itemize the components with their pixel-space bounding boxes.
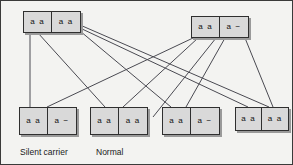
connection-line — [245, 38, 273, 107]
allele-cell-right: a a — [262, 108, 288, 130]
genotype-box-offspring-1[interactable]: a a a − — [19, 107, 77, 135]
allele-cell-right: a − — [220, 17, 248, 37]
allele-cell-left: a a — [91, 108, 119, 134]
connection-line — [186, 38, 225, 107]
connection-line — [123, 38, 198, 107]
connection-line — [38, 33, 105, 107]
genotype-box-parent-left[interactable]: a a a a — [23, 11, 81, 33]
genotype-box-offspring-4[interactable]: a a a a — [235, 107, 289, 131]
connection-line — [47, 38, 193, 107]
allele-cell-right: a − — [191, 108, 219, 134]
allele-cell-left: a a — [20, 108, 48, 134]
allele-cell-left: a a — [163, 108, 191, 134]
caption-silent-carrier: Silent carrier — [20, 147, 68, 157]
allele-inheritance-figure: a a a a a a a − a a a − a a a a a a a − … — [0, 0, 293, 165]
allele-cell-left: a a — [24, 12, 52, 32]
allele-cell-left: a a — [192, 17, 220, 37]
allele-cell-left: a a — [236, 108, 262, 130]
connection-line — [80, 31, 171, 107]
caption-normal: Normal — [96, 147, 123, 157]
allele-cell-right: a a — [52, 12, 80, 32]
allele-cell-right: a a — [119, 108, 147, 134]
allele-cell-right: a − — [48, 108, 76, 134]
genotype-box-parent-right[interactable]: a a a − — [191, 16, 249, 38]
genotype-box-offspring-3[interactable]: a a a − — [162, 107, 220, 135]
genotype-box-offspring-2[interactable]: a a a a — [90, 107, 148, 135]
connection-line — [153, 38, 216, 117]
connection-line — [80, 28, 248, 107]
